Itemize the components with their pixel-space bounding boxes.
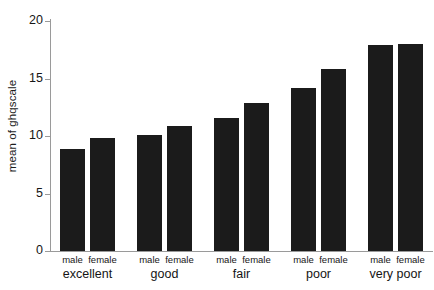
y-tick-label: 20 <box>1 14 43 27</box>
bar <box>167 126 192 251</box>
bar <box>90 138 115 251</box>
y-tick-mark <box>45 194 51 195</box>
y-tick-mark <box>45 136 51 137</box>
x-series-label: female <box>84 255 121 265</box>
x-series-label: female <box>238 255 275 265</box>
bar <box>137 135 162 251</box>
bar-chart: mean of ghqscale 05101520 malefemaleexce… <box>0 0 434 290</box>
x-series-label: female <box>161 255 198 265</box>
bar <box>60 149 85 251</box>
y-tick-mark <box>45 79 51 80</box>
y-tick-label: 10 <box>1 129 43 142</box>
bar <box>398 44 423 251</box>
y-tick-label: 15 <box>1 72 43 85</box>
x-axis-line <box>50 251 433 252</box>
y-tick-mark <box>45 21 51 22</box>
y-axis-title-text: mean of ghqscale <box>6 80 18 172</box>
y-tick-label: 5 <box>1 187 43 200</box>
x-group-label: very poor <box>348 268 434 281</box>
x-series-label: female <box>392 255 429 265</box>
x-series-label: female <box>315 255 352 265</box>
y-tick-mark <box>45 251 51 252</box>
bar <box>291 88 316 251</box>
y-tick-label: 0 <box>1 244 43 257</box>
bar <box>214 118 239 251</box>
bar <box>368 45 393 251</box>
bar <box>244 103 269 251</box>
y-axis-title: mean of ghqscale <box>0 0 24 252</box>
bar <box>321 69 346 251</box>
